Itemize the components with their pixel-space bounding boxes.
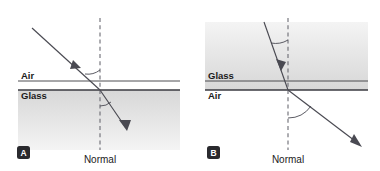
- panel-a: Air Glass Normal A: [17, 18, 180, 165]
- panel-b-upper-medium-label: Glass: [208, 70, 234, 81]
- refraction-figure: Air Glass Normal A Glass Air Normal B: [0, 0, 380, 171]
- panel-b-angle-of-refraction-arc: [288, 106, 311, 118]
- panel-a-incident-arrowhead: [70, 60, 81, 69]
- panel-b-badge-label: B: [210, 148, 216, 158]
- panel-b-refracted-arrowhead: [350, 134, 362, 147]
- panel-b-normal-label: Normal: [272, 154, 304, 165]
- panel-b-refracted-ray: [288, 90, 359, 144]
- refraction-diagram: Air Glass Normal A Glass Air Normal B: [0, 0, 380, 171]
- panel-b-lower-medium-label: Air: [208, 90, 222, 101]
- panel-b: Glass Air Normal B: [205, 18, 368, 165]
- panel-a-upper-medium-label: Air: [21, 70, 35, 81]
- panel-a-badge-label: A: [20, 148, 26, 158]
- panel-a-normal-label: Normal: [84, 154, 116, 165]
- panel-a-angle-of-incidence-arc: [85, 70, 100, 74]
- panel-a-lower-medium-label: Glass: [21, 90, 47, 101]
